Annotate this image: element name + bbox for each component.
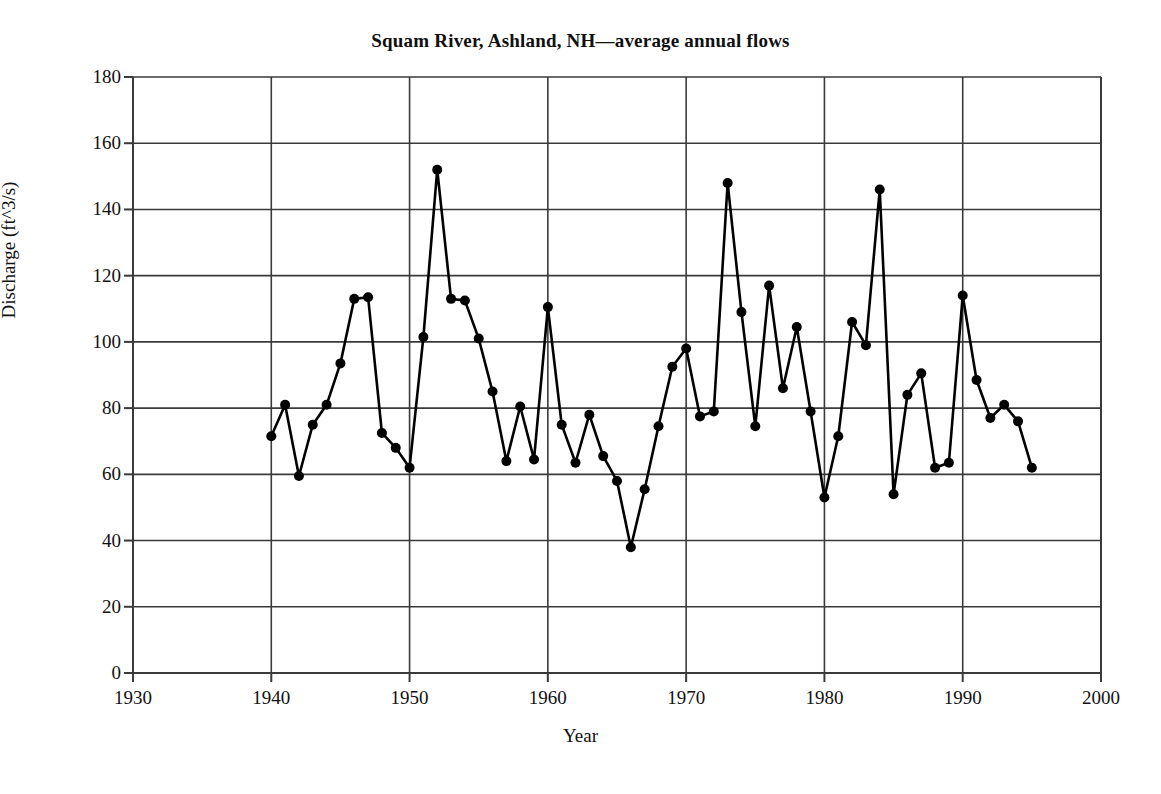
data-point <box>667 362 677 372</box>
data-point <box>584 410 594 420</box>
data-point <box>418 332 428 342</box>
y-tick-label: 80 <box>61 397 121 419</box>
data-point <box>764 281 774 291</box>
data-point <box>999 400 1009 410</box>
data-point <box>1027 463 1037 473</box>
data-point <box>875 185 885 195</box>
x-tick-label: 1930 <box>93 687 173 709</box>
data-point <box>322 400 332 410</box>
chart-figure: Squam River, Ashland, NH—average annual … <box>0 0 1161 794</box>
data-point <box>847 317 857 327</box>
data-point <box>944 458 954 468</box>
data-point <box>972 375 982 385</box>
y-tick-label: 180 <box>61 66 121 88</box>
data-point <box>889 489 899 499</box>
data-point <box>405 463 415 473</box>
y-axis-label: Discharge (ft^3/s) <box>0 120 20 380</box>
x-tick-label: 1960 <box>508 687 588 709</box>
data-point <box>833 431 843 441</box>
x-tick-label: 1980 <box>784 687 864 709</box>
x-tick-label: 1940 <box>231 687 311 709</box>
data-point <box>529 454 539 464</box>
y-tick-label: 60 <box>61 463 121 485</box>
x-tick-label: 1950 <box>370 687 450 709</box>
data-point <box>653 421 663 431</box>
y-tick-label: 100 <box>61 331 121 353</box>
data-point <box>985 413 995 423</box>
data-point <box>391 443 401 453</box>
data-point <box>626 542 636 552</box>
data-point <box>723 178 733 188</box>
data-point <box>349 294 359 304</box>
data-point <box>778 383 788 393</box>
data-point <box>446 294 456 304</box>
data-point <box>750 421 760 431</box>
data-point <box>501 456 511 466</box>
data-point <box>736 307 746 317</box>
data-point <box>571 458 581 468</box>
data-point <box>902 390 912 400</box>
data-point <box>958 291 968 301</box>
data-point <box>819 493 829 503</box>
y-tick-label: 120 <box>61 265 121 287</box>
data-point <box>695 411 705 421</box>
data-point <box>432 165 442 175</box>
y-tick-label: 160 <box>61 132 121 154</box>
data-point <box>681 344 691 354</box>
data-point <box>598 451 608 461</box>
data-point <box>377 428 387 438</box>
data-point <box>640 484 650 494</box>
plot-area <box>133 77 1101 673</box>
data-point <box>792 322 802 332</box>
data-point <box>266 431 276 441</box>
chart-title: Squam River, Ashland, NH—average annual … <box>0 30 1161 52</box>
data-point <box>363 292 373 302</box>
x-tick-label: 1970 <box>646 687 726 709</box>
data-point <box>280 400 290 410</box>
x-tick-label: 2000 <box>1061 687 1141 709</box>
data-point <box>557 420 567 430</box>
data-point <box>488 387 498 397</box>
data-point <box>916 368 926 378</box>
data-series-line <box>133 77 1101 673</box>
x-axis-label: Year <box>0 725 1161 747</box>
data-point <box>709 406 719 416</box>
data-point <box>308 420 318 430</box>
x-tick-label: 1990 <box>923 687 1003 709</box>
y-tick-label: 0 <box>61 662 121 684</box>
data-point <box>543 302 553 312</box>
data-point <box>861 340 871 350</box>
data-point <box>515 401 525 411</box>
data-point <box>930 463 940 473</box>
data-point <box>335 358 345 368</box>
data-point <box>806 406 816 416</box>
data-point <box>474 334 484 344</box>
data-point <box>1013 416 1023 426</box>
data-point <box>460 296 470 306</box>
y-tick-label: 40 <box>61 530 121 552</box>
data-point <box>612 476 622 486</box>
y-tick-label: 20 <box>61 596 121 618</box>
y-tick-label: 140 <box>61 198 121 220</box>
data-point <box>294 471 304 481</box>
